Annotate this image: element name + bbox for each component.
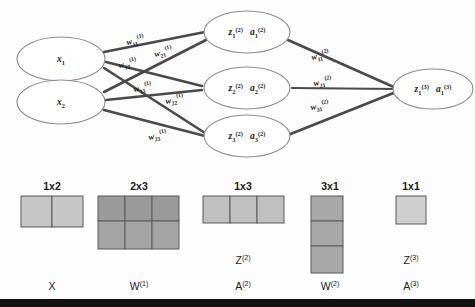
matrix-W1-cell [152, 221, 179, 249]
matrix-A3-alt-name: Z(3) [404, 254, 419, 266]
diagram-page: x1 x2 z1(2) a1(2) z2(2) a2(2) z3(2) a3(2… [0, 0, 475, 307]
edge-h3-out [288, 92, 396, 135]
matrix-W1-cell [98, 196, 125, 221]
matrix-W1-dim: 2x3 [130, 180, 148, 192]
weight-label-w23-1: w23(1) [147, 127, 167, 143]
matrix-W2-cell [311, 221, 343, 246]
matrix-A2: 1x3 Z(2) A(2) [203, 180, 284, 292]
matrix-X-cell [21, 196, 52, 227]
weight-label-w13-1: w13(1) [132, 79, 152, 95]
matrix-W1-cell [98, 221, 125, 249]
matrix-A2-alt-name: Z(2) [236, 254, 251, 266]
matrix-W2-dim: 3x1 [321, 180, 339, 192]
matrix-A2-dim: 1x3 [234, 180, 252, 192]
network-graph: x1 x2 z1(2) a1(2) z2(2) a2(2) z3(2) a3(2… [0, 0, 475, 172]
matrix-A2-cell [203, 196, 230, 223]
weight-label-w11-1: w11(1) [125, 32, 145, 48]
matrix-W2: 3x1 W(2) [311, 180, 343, 292]
edge-x2-h2 [106, 90, 202, 100]
edge-h2-out [292, 88, 396, 89]
matrix-W1-cell [152, 196, 179, 221]
matrix-W2-cell [311, 246, 343, 273]
matrix-W1-name: W(1) [130, 280, 148, 292]
matrix-A2-cell [257, 196, 284, 223]
matrix-A2-cell [230, 196, 257, 223]
bottom-divider-bar [0, 299, 475, 307]
matrix-W1: 2x3 W(1) [98, 180, 179, 292]
edge-h1-out [288, 40, 396, 88]
matrix-W1-cell [125, 196, 152, 221]
weight-label-w11-2: w11(2) [310, 47, 330, 63]
matrix-A3: 1x1 Z(3) A(3) [396, 180, 426, 292]
matrix-X-cell [52, 196, 83, 227]
matrix-A3-name: A(3) [403, 280, 419, 292]
matrix-A3-dim: 1x1 [402, 180, 420, 192]
matrix-W2-name: W(2) [321, 280, 339, 292]
matrix-shapes-row: 1x2 X 2x3 W(1) 1x3 Z [0, 172, 475, 307]
matrix-W2-cell [311, 196, 343, 221]
matrix-W1-cell [125, 221, 152, 249]
matrix-A2-name: A(2) [235, 280, 251, 292]
matrix-X: 1x2 X [21, 180, 83, 292]
weight-label-w31-2: w31(2) [310, 98, 330, 113]
weight-label-w21-2: w21(2) [313, 74, 333, 89]
matrix-X-name: X [48, 280, 55, 292]
matrix-A3-cell [396, 196, 426, 224]
matrix-X-dim: 1x2 [43, 180, 61, 192]
